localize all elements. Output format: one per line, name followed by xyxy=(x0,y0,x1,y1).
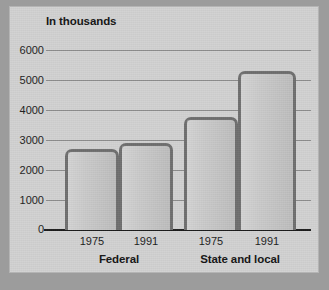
ytick-3000: 3000 xyxy=(10,134,44,146)
bar-state-and-local-1991[interactable] xyxy=(238,71,296,230)
ytick-label: 1000 xyxy=(12,194,44,206)
bar-fill xyxy=(122,146,170,230)
ytick-4000: 4000 xyxy=(10,104,44,116)
ytick-label: 6000 xyxy=(12,44,44,56)
bar-fill xyxy=(187,120,235,230)
ytick-1000: 1000 xyxy=(10,194,44,206)
bar-state-and-local-1975[interactable] xyxy=(184,117,238,230)
ytick-label: 2000 xyxy=(12,164,44,176)
gridline-6000 xyxy=(46,50,311,51)
bar-fill xyxy=(68,152,116,230)
xtick-state-and-local-1991: 1991 xyxy=(238,235,296,247)
ytick-0: 0 xyxy=(10,223,44,235)
figure: In thousands 6000 5000 4000 3000 2000 xyxy=(0,0,329,290)
ytick-label: 5000 xyxy=(12,74,44,86)
bar-fill xyxy=(241,74,293,230)
group-label-state-and-local: State and local xyxy=(184,253,296,265)
ytick-6000: 6000 xyxy=(10,44,44,56)
ytick-5000: 5000 xyxy=(10,74,44,86)
xtick-federal-1991: 1991 xyxy=(119,235,173,247)
group-label-federal: Federal xyxy=(65,253,173,265)
ytick-label: 0 xyxy=(12,223,44,235)
ytick-label: 3000 xyxy=(12,134,44,146)
chart-panel: In thousands 6000 5000 4000 3000 2000 xyxy=(9,6,319,273)
plot-area: In thousands 6000 5000 4000 3000 2000 xyxy=(10,7,319,273)
chart-title: In thousands xyxy=(46,15,116,27)
ytick-label: 4000 xyxy=(12,104,44,116)
bar-federal-1991[interactable] xyxy=(119,143,173,230)
xtick-federal-1975: 1975 xyxy=(65,235,119,247)
ytick-2000: 2000 xyxy=(10,164,44,176)
xtick-state-and-local-1975: 1975 xyxy=(184,235,238,247)
bar-federal-1975[interactable] xyxy=(65,149,119,230)
